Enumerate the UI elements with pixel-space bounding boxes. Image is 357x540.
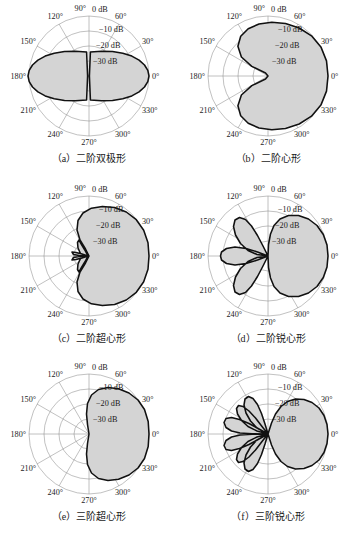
angle-tick-60deg: 60°: [115, 192, 126, 201]
angle-tick-210deg: 210°: [20, 286, 36, 295]
angle-tick-60deg: 60°: [115, 12, 126, 21]
db-tick--20: −20 dB: [96, 221, 121, 230]
angle-tick-150deg: 150°: [199, 37, 215, 46]
db-tick--20: −20 dB: [275, 399, 300, 408]
polar-chart-a: 0° 30° 60° 90° 120° 150° 180° 210° 240° …: [0, 0, 178, 152]
angle-tick-300deg: 300°: [115, 310, 131, 319]
angle-tick-0deg: 0°: [331, 252, 338, 261]
db-tick-0: 0 dB: [92, 185, 108, 194]
angle-tick-60deg: 60°: [294, 192, 305, 201]
angle-tick-150deg: 150°: [20, 395, 36, 404]
angle-tick-330deg: 330°: [142, 106, 158, 115]
angle-tick-240deg: 240°: [226, 310, 242, 319]
panel-b-plot: 0° 30° 60° 90° 120° 150° 180° 210° 240° …: [179, 0, 357, 152]
angle-tick-300deg: 300°: [115, 488, 131, 497]
polar-chart-c: 0° 30° 60° 90° 120° 150° 180° 210° 240° …: [0, 180, 178, 332]
angle-tick-30deg: 30°: [142, 217, 153, 226]
angle-tick-330deg: 330°: [142, 286, 158, 295]
angle-tick-330deg: 330°: [321, 464, 337, 473]
angle-tick-270deg: 270°: [260, 138, 276, 147]
angle-tick-150deg: 150°: [199, 217, 215, 226]
angle-tick-210deg: 210°: [199, 464, 215, 473]
angle-tick-180deg: 180°: [189, 430, 205, 439]
db-tick--10: −10 dB: [99, 25, 124, 34]
angle-tick-330deg: 330°: [321, 106, 337, 115]
db-tick-0: 0 dB: [271, 5, 287, 14]
angle-tick-0deg: 0°: [331, 72, 338, 81]
db-tick--30: −30 dB: [272, 415, 297, 424]
angle-tick-180deg: 180°: [10, 430, 26, 439]
db-tick-0: 0 dB: [271, 185, 287, 194]
angle-tick-90deg: 90°: [254, 362, 265, 371]
angle-tick-30deg: 30°: [142, 395, 153, 404]
angle-tick-90deg: 90°: [75, 362, 86, 371]
db-tick--30: −30 dB: [272, 57, 297, 66]
angle-tick-210deg: 210°: [199, 106, 215, 115]
db-tick--30: −30 dB: [93, 415, 118, 424]
db-tick--10: −10 dB: [99, 383, 124, 392]
panel-c-plot: 0° 30° 60° 90° 120° 150° 180° 210° 240° …: [0, 180, 178, 332]
angle-tick-60deg: 60°: [294, 12, 305, 21]
db-tick--30: −30 dB: [93, 57, 118, 66]
angle-tick-210deg: 210°: [20, 106, 36, 115]
angle-tick-120deg: 120°: [47, 370, 63, 379]
angle-tick-240deg: 240°: [226, 488, 242, 497]
db-tick--10: −10 dB: [278, 25, 303, 34]
panel-b-caption: （b）二阶心形: [179, 150, 357, 165]
angle-tick-0deg: 0°: [331, 430, 338, 439]
db-tick--20: −20 dB: [96, 41, 121, 50]
figure-root: 0° 30° 60° 90° 120° 150° 180° 210° 240° …: [0, 0, 357, 540]
angle-tick-330deg: 330°: [321, 286, 337, 295]
angle-tick-270deg: 270°: [260, 496, 276, 505]
db-tick-0: 0 dB: [271, 363, 287, 372]
angle-tick-210deg: 210°: [199, 286, 215, 295]
db-tick--20: −20 dB: [96, 399, 121, 408]
angle-tick-90deg: 90°: [75, 4, 86, 13]
panel-c: 0° 30° 60° 90° 120° 150° 180° 210° 240° …: [0, 180, 178, 360]
db-tick--10: −10 dB: [278, 383, 303, 392]
panel-b: 0° 30° 60° 90° 120° 150° 180° 210° 240° …: [179, 0, 357, 180]
angle-tick-240deg: 240°: [47, 130, 63, 139]
angle-tick-30deg: 30°: [321, 37, 332, 46]
angle-tick-180deg: 180°: [189, 252, 205, 261]
angle-tick-60deg: 60°: [294, 370, 305, 379]
db-tick-0: 0 dB: [92, 363, 108, 372]
angle-tick-120deg: 120°: [47, 12, 63, 21]
panel-f-caption: （f）三阶锐心形: [179, 508, 357, 523]
panel-e: 0° 30° 60° 90° 120° 150° 180° 210° 240° …: [0, 358, 178, 538]
angle-tick-120deg: 120°: [226, 192, 242, 201]
angle-tick-300deg: 300°: [294, 130, 310, 139]
panel-d: 0° 30° 60° 90° 120° 150° 180° 210° 240° …: [179, 180, 357, 360]
angle-tick-90deg: 90°: [75, 184, 86, 193]
angle-tick-150deg: 150°: [20, 37, 36, 46]
angle-tick-270deg: 270°: [81, 138, 97, 147]
panel-a-plot: 0° 30° 60° 90° 120° 150° 180° 210° 240° …: [0, 0, 178, 152]
panel-f: 0° 30° 60° 90° 120° 150° 180° 210° 240° …: [179, 358, 357, 538]
angle-tick-150deg: 150°: [20, 217, 36, 226]
angle-tick-30deg: 30°: [142, 37, 153, 46]
angle-tick-300deg: 300°: [294, 488, 310, 497]
angle-tick-330deg: 330°: [142, 464, 158, 473]
panel-a: 0° 30° 60° 90° 120° 150° 180° 210° 240° …: [0, 0, 178, 180]
db-tick--30: −30 dB: [272, 237, 297, 246]
panel-c-caption: （c）二阶超心形: [0, 330, 178, 345]
angle-tick-210deg: 210°: [20, 464, 36, 473]
angle-tick-30deg: 30°: [321, 217, 332, 226]
angle-tick-270deg: 270°: [81, 318, 97, 327]
polar-chart-f: 0° 30° 60° 90° 120° 150° 180° 210° 240° …: [179, 358, 357, 510]
db-tick-0: 0 dB: [92, 5, 108, 14]
panel-d-plot: 0° 30° 60° 90° 120° 150° 180° 210° 240° …: [179, 180, 357, 332]
angle-tick-0deg: 0°: [152, 72, 159, 81]
angle-tick-240deg: 240°: [47, 488, 63, 497]
angle-tick-180deg: 180°: [10, 252, 26, 261]
angle-tick-240deg: 240°: [47, 310, 63, 319]
angle-tick-180deg: 180°: [10, 72, 26, 81]
panel-e-plot: 0° 30° 60° 90° 120° 150° 180° 210° 240° …: [0, 358, 178, 510]
angle-tick-300deg: 300°: [294, 310, 310, 319]
angle-tick-0deg: 0°: [152, 430, 159, 439]
panel-f-plot: 0° 30° 60° 90° 120° 150° 180° 210° 240° …: [179, 358, 357, 510]
db-tick--20: −20 dB: [275, 221, 300, 230]
panel-a-caption: （a）二阶双极形: [0, 150, 178, 165]
db-tick--20: −20 dB: [275, 41, 300, 50]
angle-tick-180deg: 180°: [189, 72, 205, 81]
